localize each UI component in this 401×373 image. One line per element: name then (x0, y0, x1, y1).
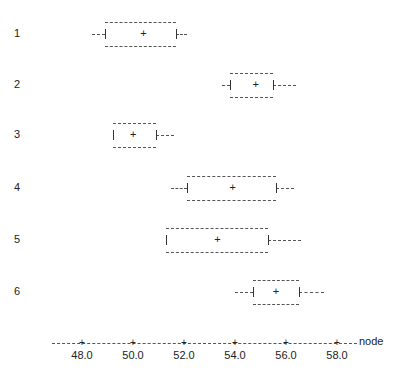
x-axis-tick: + (232, 338, 238, 348)
box-top-edge (105, 22, 176, 23)
mean-marker: + (214, 234, 220, 245)
whisker-low (92, 34, 105, 35)
whisker-high (176, 34, 186, 35)
whisker-high (299, 292, 325, 293)
box-left-edge (166, 235, 167, 245)
row-label: 2 (11, 78, 23, 90)
row-label: 6 (11, 285, 23, 297)
box-bottom-edge (105, 46, 176, 47)
mean-marker: + (140, 28, 146, 39)
box-top-edge (113, 123, 156, 124)
x-axis-tick-label: 56.0 (275, 349, 296, 361)
mean-marker: + (229, 182, 235, 193)
box-right-edge (176, 29, 177, 39)
box-top-edge (166, 228, 268, 229)
whisker-high (156, 135, 174, 136)
box-right-edge (268, 235, 269, 245)
box-left-edge (113, 130, 114, 140)
box-right-edge (273, 80, 274, 90)
whisker-high (268, 240, 301, 241)
box-bottom-edge (230, 97, 273, 98)
box-bottom-edge (187, 200, 276, 201)
box-left-edge (105, 29, 106, 39)
row-label: 3 (11, 128, 23, 140)
box-top-edge (253, 280, 299, 281)
box-left-edge (230, 80, 231, 90)
x-axis-tick: + (130, 338, 136, 348)
box-top-edge (230, 73, 273, 74)
box-bottom-edge (166, 252, 268, 253)
x-axis-tick: + (283, 338, 289, 348)
x-axis-tick: + (334, 338, 340, 348)
x-axis-tick: + (181, 338, 187, 348)
box-top-edge (187, 176, 276, 177)
box-left-edge (187, 183, 188, 193)
x-axis-title: node (359, 335, 383, 347)
whisker-low (222, 85, 230, 86)
box-right-edge (156, 130, 157, 140)
box-right-edge (299, 287, 300, 297)
x-axis-line (52, 343, 357, 344)
whisker-low (171, 188, 186, 189)
row-label: 5 (11, 233, 23, 245)
whisker-high (273, 85, 296, 86)
x-axis-tick-label: 52.0 (173, 349, 194, 361)
box-bottom-edge (113, 147, 156, 148)
x-axis-tick: + (79, 338, 85, 348)
row-label: 1 (11, 27, 23, 39)
x-axis-tick-label: 54.0 (224, 349, 245, 361)
box-bottom-edge (253, 304, 299, 305)
x-axis-tick-label: 48.0 (71, 349, 92, 361)
box-right-edge (276, 183, 277, 193)
mean-marker: + (252, 79, 258, 90)
x-axis-tick-label: 58.0 (326, 349, 347, 361)
whisker-high (276, 188, 294, 189)
whisker-low (235, 292, 253, 293)
x-axis-tick-label: 50.0 (122, 349, 143, 361)
mean-marker: + (273, 286, 279, 297)
row-label: 4 (11, 181, 23, 193)
box-left-edge (253, 287, 254, 297)
mean-marker: + (130, 129, 136, 140)
